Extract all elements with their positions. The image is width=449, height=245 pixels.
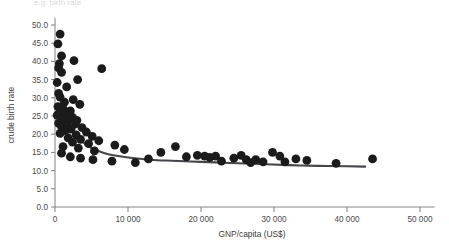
x-tick-label: 10 000	[115, 215, 140, 224]
data-point	[144, 155, 153, 164]
y-tick-label: 25.0	[32, 112, 48, 121]
data-point	[76, 154, 85, 163]
x-axis: 010 00020 00030 00040 00050 000	[53, 207, 435, 224]
y-tick-label: 10.0	[32, 167, 48, 176]
x-tick-label: 20 000	[188, 215, 213, 224]
data-point	[332, 159, 341, 168]
data-point	[120, 145, 129, 154]
data-point	[76, 135, 85, 144]
data-point	[90, 147, 99, 156]
data-point	[171, 142, 180, 151]
y-tick-label: 30.0	[32, 94, 48, 103]
cropped-caption-text: e.g. birth rate	[34, 0, 82, 7]
data-point	[259, 157, 268, 166]
scatter-plot: e.g. birth rate 0.05.010.015.020.025.030…	[0, 0, 449, 245]
data-point	[110, 141, 119, 150]
y-axis: 0.05.010.015.020.025.030.035.040.045.050…	[32, 18, 55, 212]
data-point	[84, 139, 93, 148]
y-tick-label: 35.0	[32, 76, 48, 85]
chart-figure: e.g. birth rate 0.05.010.015.020.025.030…	[0, 0, 449, 245]
data-point	[94, 136, 103, 145]
data-point	[70, 56, 79, 65]
y-tick-label: 5.0	[37, 185, 49, 194]
data-point	[368, 155, 377, 164]
data-point	[292, 155, 301, 164]
data-point	[54, 40, 63, 49]
data-point	[75, 100, 84, 109]
y-tick-label: 20.0	[32, 130, 48, 139]
data-point	[57, 52, 66, 61]
data-point	[131, 158, 140, 167]
data-point	[281, 157, 290, 166]
data-point	[62, 82, 71, 91]
data-point	[97, 64, 106, 73]
x-tick-label: 0	[53, 215, 58, 224]
data-point	[56, 129, 65, 138]
x-tick-label: 50 000	[407, 215, 432, 224]
y-tick-label: 45.0	[32, 39, 48, 48]
y-tick-label: 0.0	[37, 203, 49, 212]
data-point	[74, 144, 83, 153]
data-point	[108, 157, 117, 166]
data-points	[53, 30, 377, 168]
data-point	[66, 152, 75, 161]
data-point	[57, 68, 66, 77]
data-point	[53, 78, 62, 87]
y-tick-label: 40.0	[32, 57, 48, 66]
data-point	[156, 148, 165, 157]
x-tick-label: 30 000	[261, 215, 286, 224]
y-tick-label: 50.0	[32, 21, 48, 30]
cropped-caption-fragment: e.g. birth rate	[34, 0, 82, 7]
y-axis-title: crude birth rate	[6, 86, 16, 143]
data-point	[302, 156, 311, 165]
data-point	[182, 152, 191, 161]
data-point	[56, 30, 65, 39]
x-tick-label: 40 000	[334, 215, 359, 224]
y-tick-label: 15.0	[32, 148, 48, 157]
data-point	[57, 149, 66, 158]
data-point	[89, 155, 98, 164]
data-point	[73, 75, 82, 84]
data-point	[217, 157, 226, 166]
x-axis-title: GNP/capita (US$)	[218, 229, 285, 239]
